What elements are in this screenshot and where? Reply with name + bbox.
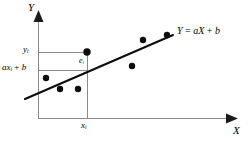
label-y-i: yi (23, 45, 29, 55)
data-point (129, 63, 135, 69)
label-fitted-value: axi + b (2, 63, 26, 73)
data-point (43, 75, 49, 81)
label-y-i-subscript: i (27, 48, 29, 54)
label-equation-equals: = (183, 25, 194, 36)
label-residual: ei (79, 57, 84, 66)
label-fitted-base: ax (2, 62, 11, 72)
linear-regression-residual-diagram: Y X yi axi + b ei xi Y = aX + b (0, 0, 248, 143)
data-point (57, 86, 63, 92)
label-x-i: xi (81, 121, 87, 131)
label-equation-intercept: b (215, 25, 220, 36)
label-fitted-operator: + (12, 62, 22, 72)
label-equation-plus: + (204, 25, 215, 36)
label-fitted-intercept: b (22, 62, 27, 72)
data-point (75, 86, 81, 92)
axis-label-y: Y (28, 2, 34, 13)
label-equation-slope-term: aX (193, 25, 204, 36)
regression-line (25, 35, 173, 99)
data-point (164, 32, 170, 38)
label-residual-subscript: i (83, 60, 84, 65)
axis-y-arrowhead (34, 10, 44, 22)
label-x-i-subscript: i (85, 124, 87, 130)
data-point-highlighted (83, 48, 90, 55)
axis-x-arrowhead (226, 114, 238, 124)
axis-label-x: X (233, 125, 240, 136)
label-line-equation: Y = aX + b (177, 26, 220, 36)
diagram-canvas (0, 0, 248, 143)
data-point (140, 37, 146, 43)
